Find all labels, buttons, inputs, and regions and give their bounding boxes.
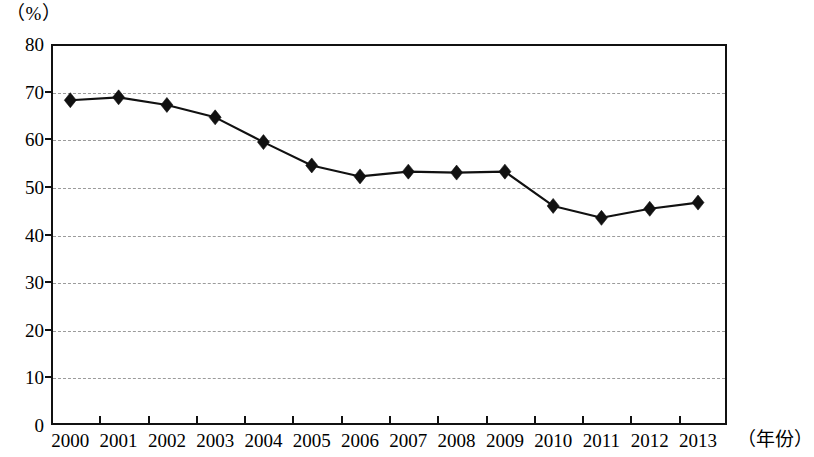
y-axis-tick-label: 20 [0,321,44,340]
x-axis-tick-mark [486,416,488,425]
y-axis-tick-label: 80 [0,35,44,54]
gridline [53,93,725,94]
x-axis-tick-mark [341,416,343,425]
gridline [53,188,725,189]
y-axis-tick-label: 60 [0,130,44,149]
gridline [53,331,725,332]
x-axis-tick-mark [148,416,150,425]
chart-figure: （%） 01020304050607080 200020012002200320… [0,0,814,457]
y-axis-tick-label: 30 [0,273,44,292]
x-axis-unit-label: （年份） [737,428,813,452]
x-axis-tick-mark [679,416,681,425]
x-axis-tick-mark [437,416,439,425]
x-axis-tick-mark [196,416,198,425]
x-axis-tick-label: 2013 [668,430,728,452]
plot-area [51,44,727,425]
y-axis-ticks: 01020304050607080 [0,0,48,457]
gridline [53,140,725,141]
x-axis-tick-mark [534,416,536,425]
y-axis-tick-label: 10 [0,368,44,387]
x-axis-labels: 2000200120022003200420052006200720082009… [0,430,814,456]
y-axis-tick-label: 40 [0,226,44,245]
x-axis-tick-mark [244,416,246,425]
gridlines-layer [53,46,725,423]
gridline [53,283,725,284]
gridline [53,236,725,237]
y-axis-tick-label: 50 [0,178,44,197]
gridline [53,378,725,379]
x-axis-tick-mark [99,416,101,425]
x-axis-tick-mark [630,416,632,425]
x-axis-tick-mark [389,416,391,425]
x-axis-tick-mark [582,416,584,425]
x-axis-tick-mark [292,416,294,425]
y-axis-tick-label: 70 [0,83,44,102]
